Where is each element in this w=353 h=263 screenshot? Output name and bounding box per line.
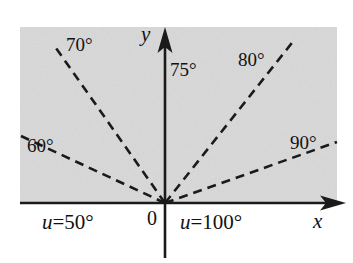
ray-label-80: 80° bbox=[238, 50, 265, 69]
ray-label-60: 60° bbox=[27, 136, 54, 155]
boundary-right-equals: = bbox=[191, 210, 203, 234]
boundary-label-left: u=50° bbox=[42, 212, 94, 233]
boundary-left-value: 50° bbox=[64, 210, 93, 234]
y-axis-label: y bbox=[141, 24, 150, 45]
boundary-right-value: 100° bbox=[202, 210, 242, 234]
ray-label-90: 90° bbox=[290, 133, 317, 152]
boundary-left-variable: u bbox=[42, 210, 53, 234]
figure-container: 60° 70° 80° 90° 75° y x 0 u=50° u=100° bbox=[0, 0, 353, 263]
boundary-right-variable: u bbox=[180, 210, 191, 234]
ray-label-75: 75° bbox=[170, 60, 197, 79]
x-axis-label: x bbox=[313, 211, 322, 232]
ray-label-70: 70° bbox=[66, 35, 93, 54]
boundary-left-equals: = bbox=[53, 210, 65, 234]
origin-label: 0 bbox=[147, 208, 157, 228]
boundary-label-right: u=100° bbox=[180, 212, 242, 233]
